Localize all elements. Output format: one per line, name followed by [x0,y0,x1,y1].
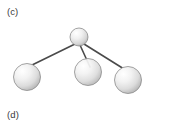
atom-right [115,67,142,94]
panel-label-d: (d) [7,110,19,120]
figure-canvas: (c) [0,0,170,127]
bond-top-left [30,44,75,66]
molecule-diagram [0,0,170,127]
atom-left [14,64,41,91]
atom-middle [75,59,102,86]
atom-top [70,28,88,46]
